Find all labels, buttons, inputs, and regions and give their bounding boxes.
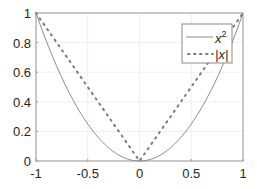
y-tick-label: 0.6 [13, 65, 31, 80]
legend-label-abs-x: |x| [215, 47, 228, 62]
legend: x2 |x| [182, 24, 232, 63]
y-tick-label: 0.4 [13, 95, 31, 110]
x-tick-label: -0.5 [77, 166, 99, 181]
x-tick-label: -1 [30, 166, 42, 181]
y-tick-label: 0.2 [13, 124, 31, 139]
x-tick-label: 1 [239, 166, 246, 181]
y-tick-label: 1 [24, 6, 31, 21]
x-tick-label: 0 [136, 166, 143, 181]
y-tick-label: 0 [24, 154, 31, 169]
chart: -1-0.500.51 00.20.40.60.81 x2 |x| [0, 0, 257, 189]
y-tick-label: 0.8 [13, 36, 31, 51]
x-axis-ticks: -1-0.500.51 [30, 159, 246, 181]
x-tick-label: 0.5 [182, 166, 200, 181]
y-axis-ticks: 00.20.40.60.81 [13, 6, 38, 169]
